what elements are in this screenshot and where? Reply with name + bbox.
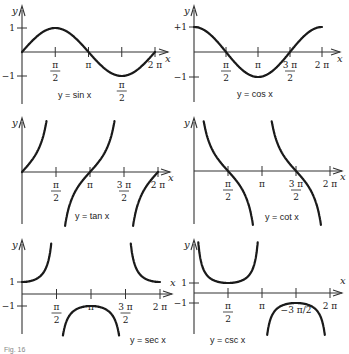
x-tick-label: π2 xyxy=(117,80,127,103)
graph-title: y = csc x xyxy=(210,335,246,345)
svg-text:2: 2 xyxy=(223,73,229,83)
graph-cos: yxπ2π3 π22 π+1−1y = cos x xyxy=(174,5,343,102)
x-tick-label: 3 π2 xyxy=(117,180,132,203)
x-tick-label: π xyxy=(87,180,93,190)
svg-text:2: 2 xyxy=(52,73,58,83)
graph-csc: yxπ2π−3 π/22 π1−1y = csc x xyxy=(174,239,346,345)
y-axis-label: y xyxy=(11,117,18,128)
x-tick-label: π2 xyxy=(50,60,60,83)
x-tick-label: −3 π/2 xyxy=(281,305,312,315)
svg-text:2 π: 2 π xyxy=(323,301,338,311)
y-axis-label: y xyxy=(183,239,190,250)
y-axis-label: y xyxy=(11,239,18,250)
graph-title: y = cot x xyxy=(265,212,299,222)
svg-text:2: 2 xyxy=(54,315,60,325)
svg-text:π: π xyxy=(119,80,125,90)
y-axis-label: y xyxy=(183,5,190,16)
trig-function-graphs: yxπ2ππ22 π1−1y = sin xyxπ2π3 π22 π+1−1y … xyxy=(0,0,349,354)
svg-text:2 π: 2 π xyxy=(323,179,338,189)
x-tick-label: π xyxy=(259,301,265,311)
graph-title: y = sin x xyxy=(58,90,92,100)
y-tick-label: −1 xyxy=(2,71,15,81)
x-tick-label: 2 π xyxy=(323,301,338,311)
svg-text:3 π: 3 π xyxy=(289,179,304,189)
svg-text:π: π xyxy=(53,180,59,190)
x-tick-label: π2 xyxy=(223,301,233,324)
svg-text:3 π: 3 π xyxy=(283,60,298,70)
svg-text:π: π xyxy=(87,180,93,190)
graph-title: y = cos x xyxy=(237,89,273,99)
svg-text:π: π xyxy=(255,60,261,70)
svg-text:2: 2 xyxy=(121,193,127,203)
svg-text:2 π: 2 π xyxy=(151,180,166,190)
svg-text:2: 2 xyxy=(225,314,231,324)
y-tick-label: 1 xyxy=(9,277,15,287)
svg-text:3 π: 3 π xyxy=(118,302,133,312)
y-axis-label: y xyxy=(11,5,18,16)
svg-text:π: π xyxy=(52,60,58,70)
svg-text:π: π xyxy=(54,302,60,312)
svg-text:2: 2 xyxy=(287,73,293,83)
y-tick-label: 1 xyxy=(9,23,15,33)
svg-text:π: π xyxy=(259,179,265,189)
svg-text:2 π: 2 π xyxy=(153,302,168,312)
graph-title: y = tan x xyxy=(75,211,110,221)
x-tick-label: π2 xyxy=(52,302,62,325)
svg-text:3 π: 3 π xyxy=(117,180,132,190)
x-tick-label: 2 π xyxy=(151,180,166,190)
x-axis-label: x xyxy=(165,53,171,64)
graph-tan: yxπ2π3 π22 πy = tan x xyxy=(11,117,174,226)
svg-text:π: π xyxy=(259,301,265,311)
graph-sin: yxπ2ππ22 π1−1y = sin x xyxy=(2,5,171,104)
x-tick-label: 3 π2 xyxy=(289,179,304,202)
y-tick-label: −1 xyxy=(2,301,15,311)
x-tick-label: π xyxy=(86,60,92,70)
svg-text:π: π xyxy=(225,179,231,189)
x-tick-label: π xyxy=(259,179,265,189)
x-axis-label: x xyxy=(170,277,176,288)
y-tick-label: −1 xyxy=(174,72,187,82)
graph-cot: yxπ2π3 π22 πy = cot x xyxy=(183,117,346,225)
svg-text:−3 π/2: −3 π/2 xyxy=(281,305,312,315)
x-tick-label: π2 xyxy=(223,179,233,202)
figure-caption: Fig. 16 xyxy=(4,346,26,354)
svg-text:2: 2 xyxy=(123,315,129,325)
x-tick-label: 2 π xyxy=(323,179,338,189)
x-axis-label: x xyxy=(337,53,343,64)
svg-text:π: π xyxy=(225,301,231,311)
x-axis-label: x xyxy=(340,171,346,182)
graph-sec: yxπ2π3 π22 π1−1y = sec x xyxy=(2,239,176,345)
svg-text:2: 2 xyxy=(119,93,125,103)
svg-text:2 π: 2 π xyxy=(148,60,163,70)
svg-text:π: π xyxy=(223,60,229,70)
x-tick-label: 3 π2 xyxy=(283,60,298,83)
x-tick-label: 3 π2 xyxy=(118,302,133,325)
svg-text:2 π: 2 π xyxy=(315,60,330,70)
svg-text:2: 2 xyxy=(53,193,59,203)
x-tick-label: π xyxy=(255,60,261,70)
graph-title: y = sec x xyxy=(130,335,166,345)
svg-text:π: π xyxy=(86,60,92,70)
x-tick-label: 2 π xyxy=(148,60,163,70)
x-tick-label: π2 xyxy=(51,180,61,203)
x-tick-label: 2 π xyxy=(315,60,330,70)
x-tick-label: 2 π xyxy=(153,302,168,312)
y-tick-label: 1 xyxy=(181,278,187,288)
y-axis-label: y xyxy=(183,117,190,128)
x-axis-label: x xyxy=(340,275,346,286)
svg-text:2: 2 xyxy=(293,192,299,202)
svg-text:2: 2 xyxy=(225,192,231,202)
y-tick-label: −1 xyxy=(174,298,187,308)
y-tick-label: +1 xyxy=(174,22,187,32)
x-axis-label: x xyxy=(168,172,174,183)
x-tick-label: π2 xyxy=(221,60,231,83)
